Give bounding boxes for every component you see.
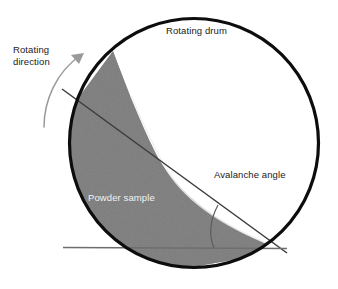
diagram-canvas (0, 0, 338, 289)
label-rotating-direction: Rotatingdirection (13, 44, 50, 68)
label-rotating-direction-line1: Rotating (13, 44, 49, 55)
horizontal-reference-line (63, 248, 287, 249)
label-powder-sample: Powder sample (88, 192, 155, 204)
rotating-drum-figure: Rotating drum Rotatingdirection Avalanch… (0, 0, 338, 289)
label-avalanche-angle: Avalanche angle (214, 169, 286, 181)
label-rotating-drum: Rotating drum (166, 25, 227, 37)
label-rotating-direction-line2: direction (13, 56, 50, 67)
arrow-head-icon (71, 53, 84, 64)
